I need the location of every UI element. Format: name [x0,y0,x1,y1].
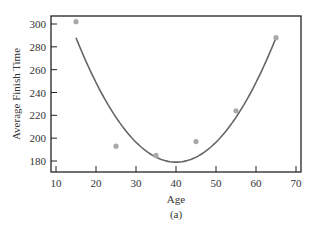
x-tick-label: 70 [291,177,303,189]
data-point [193,139,198,144]
y-tick-label: 280 [30,41,47,53]
data-point [73,19,78,24]
y-axis-ticks: 180200220240260280300 [30,18,58,167]
scatter-chart: 180200220240260280300 10203040506070 Ave… [0,0,313,231]
data-point [233,108,238,113]
x-tick-label: 40 [171,177,183,189]
x-tick-label: 30 [131,177,143,189]
y-tick-label: 200 [30,132,47,144]
data-point [273,35,278,40]
plot-border [51,16,301,172]
x-tick-label: 10 [51,177,63,189]
y-tick-label: 180 [30,155,47,167]
x-axis-label: Age [167,193,185,205]
quadratic-fit-curve [76,38,276,162]
x-tick-label: 60 [251,177,263,189]
data-point [153,153,158,158]
y-axis-label: Average Finish Time [10,48,22,140]
plot-frame [51,16,301,172]
x-tick-label: 20 [91,177,103,189]
y-tick-label: 240 [30,87,47,99]
data-point [113,144,118,149]
y-tick-label: 300 [30,18,47,30]
y-tick-label: 260 [30,64,47,76]
x-tick-label: 50 [211,177,223,189]
data-points [73,19,278,158]
x-axis-ticks: 10203040506070 [51,166,303,189]
figure-caption: (a) [170,208,183,221]
y-tick-label: 220 [30,109,47,121]
